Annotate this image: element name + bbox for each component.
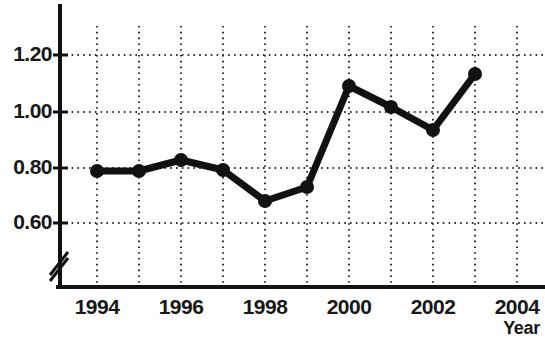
data-point-1997	[216, 163, 230, 177]
data-point-1994	[90, 164, 104, 178]
data-point-2000	[342, 79, 356, 93]
y-tick-label-0-60: 0.60	[0, 210, 52, 234]
data-point-markers	[90, 67, 482, 208]
data-point-2001	[384, 100, 398, 114]
x-tick-label-1998: 1998	[232, 295, 298, 319]
x-tick-label-2002: 2002	[400, 295, 466, 319]
data-line	[97, 74, 475, 201]
y-tick-label-1-20: 1.20	[0, 42, 52, 66]
x-tick-label-2004: 2004	[484, 295, 545, 319]
data-point-1996	[174, 153, 188, 167]
line-chart: 1.20 1.00 0.80 0.60 1994 1996 1998 2000 …	[0, 0, 545, 338]
x-tick-label-1994: 1994	[64, 295, 130, 319]
data-point-1999	[300, 180, 314, 194]
vertical-gridlines	[97, 26, 517, 286]
x-tick-label-1996: 1996	[148, 295, 214, 319]
x-axis-title: Year	[470, 318, 540, 338]
chart-canvas	[0, 0, 545, 338]
data-point-2003	[468, 67, 482, 81]
data-point-1995	[132, 164, 146, 178]
axis-lines	[58, 6, 545, 287]
y-tick-label-1-00: 1.00	[0, 99, 52, 123]
x-tick-label-2000: 2000	[316, 295, 382, 319]
data-point-2002	[426, 123, 440, 137]
data-point-1998	[258, 194, 272, 208]
y-tick-label-0-80: 0.80	[0, 155, 52, 179]
